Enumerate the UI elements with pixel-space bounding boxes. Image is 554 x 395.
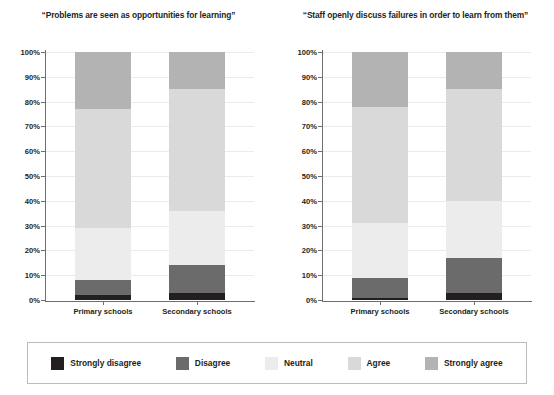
bar-segment [169,293,225,300]
legend-swatch-icon [176,357,189,370]
chart-title: “Staff openly discuss failures in order … [277,10,554,20]
y-axis-tick [41,226,46,227]
y-axis-tick-label: 30% [4,221,40,230]
y-axis-tick [318,275,323,276]
chart-title: “Problems are seen as opportunities for … [0,10,277,20]
bar-segment [169,52,225,89]
y-axis-tick-label: 40% [4,196,40,205]
legend-swatch-icon [51,357,64,370]
y-axis-tick [41,275,46,276]
y-axis-tick-label: 0% [281,296,317,305]
legend-item[interactable]: Strongly agree [425,357,503,370]
y-axis-tick [318,176,323,177]
charts-row: “Problems are seen as opportunities for … [0,0,554,330]
x-axis-category-label: Primary schools [335,307,425,316]
stacked-bar[interactable] [446,52,502,300]
y-axis-tick-label: 10% [4,271,40,280]
bar-segment [352,52,408,107]
y-axis-tick-label: 20% [281,246,317,255]
stacked-bar[interactable] [75,52,131,300]
bar-segment [446,201,502,258]
bar-segment [75,295,131,300]
legend-label: Agree [367,358,391,368]
x-axis-tick [197,301,198,305]
y-axis-tick [41,176,46,177]
bar-segment [446,52,502,89]
y-axis-tick-label: 60% [4,147,40,156]
y-axis-tick [318,77,323,78]
y-axis-tick-label: 40% [281,196,317,205]
y-axis-tick [41,126,46,127]
legend-swatch-icon [425,357,438,370]
bar-segment [169,89,225,211]
legend-label: Strongly agree [444,358,503,368]
y-axis-tick-label: 60% [281,147,317,156]
y-axis-tick [318,250,323,251]
bar-segment [352,107,408,224]
y-axis-tick-label: 100% [281,48,317,57]
y-axis-tick [41,77,46,78]
y-axis-tick [41,151,46,152]
y-axis-tick [41,250,46,251]
bar-segment [446,293,502,300]
stacked-bar[interactable] [352,52,408,300]
bar-segment [75,280,131,295]
bar-segment [75,52,131,109]
y-axis-tick-label: 50% [281,172,317,181]
y-axis-tick-label: 90% [281,72,317,81]
y-axis-tick [318,300,323,301]
y-axis-tick [41,300,46,301]
bar-segment [169,211,225,266]
y-axis-tick-label: 10% [281,271,317,280]
y-axis-tick [318,126,323,127]
legend-item[interactable]: Strongly disagree [51,357,141,370]
x-axis-tick [474,301,475,305]
bar-segment [352,223,408,278]
y-axis-tick-label: 0% [4,296,40,305]
x-axis-category-label: Secondary schools [152,307,242,316]
y-axis-tick-label: 70% [281,122,317,131]
y-axis-tick [318,226,323,227]
y-axis-tick-label: 70% [4,122,40,131]
y-axis-tick-label: 100% [4,48,40,57]
legend-item[interactable]: Agree [348,357,391,370]
y-axis-tick [318,201,323,202]
y-axis-tick-label: 20% [4,246,40,255]
chart-panel-problems-opportunities: “Problems are seen as opportunities for … [0,0,277,330]
chart-panel-staff-discuss-failures: “Staff openly discuss failures in order … [277,0,554,330]
bar-segment [352,278,408,298]
y-axis-tick-label: 90% [4,72,40,81]
bar-segment [75,109,131,228]
y-axis-tick-label: 50% [4,172,40,181]
x-axis-tick [380,301,381,305]
stacked-bar[interactable] [169,52,225,300]
y-axis-tick [41,102,46,103]
y-axis-tick [318,102,323,103]
bar-segment [446,258,502,293]
bar-segment [352,298,408,300]
y-axis-tick [318,151,323,152]
legend-swatch-icon [348,357,361,370]
y-axis-tick-label: 80% [4,97,40,106]
x-axis-category-label: Primary schools [58,307,148,316]
legend-item[interactable]: Neutral [265,357,313,370]
legend-label: Disagree [195,358,230,368]
legend-label: Strongly disagree [70,358,141,368]
plot-area [46,52,254,300]
y-axis-tick [41,201,46,202]
chart-legend: Strongly disagreeDisagreeNeutralAgreeStr… [27,342,527,384]
plot-area [323,52,531,300]
x-axis-tick [103,301,104,305]
y-axis-labels: 100%90%80%70%60%50%40%30%20%10%0% [0,0,40,330]
bar-segment [75,228,131,280]
y-axis-labels: 100%90%80%70%60%50%40%30%20%10%0% [277,0,317,330]
bar-segment [446,89,502,201]
y-axis-tick-label: 80% [281,97,317,106]
x-axis-line [45,301,255,302]
x-axis-category-label: Secondary schools [429,307,519,316]
legend-label: Neutral [284,358,313,368]
bar-segment [169,265,225,292]
y-axis-tick [318,52,323,53]
x-axis-line [322,301,532,302]
legend-item[interactable]: Disagree [176,357,230,370]
